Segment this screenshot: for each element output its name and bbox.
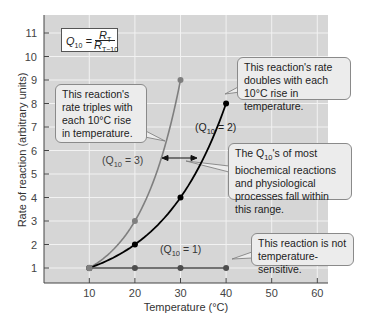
x-tick-label: 30 bbox=[174, 287, 186, 299]
y-tick-label: 2 bbox=[31, 239, 37, 251]
q10-formula-box: Q10 = RT RT−10 bbox=[61, 28, 118, 52]
data-point bbox=[132, 218, 138, 224]
y-tick-label: 4 bbox=[31, 192, 37, 204]
y-tick-label: 7 bbox=[31, 121, 37, 133]
y-tick-label: 8 bbox=[31, 98, 37, 110]
data-point bbox=[132, 265, 138, 271]
data-point bbox=[132, 242, 138, 248]
x-tick-label: 10 bbox=[83, 287, 95, 299]
data-point bbox=[223, 265, 229, 271]
callout-triples: This reaction's rate triples with each 1… bbox=[55, 84, 147, 143]
y-tick-label: 5 bbox=[31, 168, 37, 180]
x-axis-label: Temperature (°C) bbox=[144, 301, 228, 313]
data-point bbox=[178, 77, 184, 83]
callout-range: The Q10's of most biochemical reactions … bbox=[228, 143, 352, 200]
y-tick-label: 3 bbox=[31, 215, 37, 227]
x-tick-label: 20 bbox=[129, 287, 141, 299]
x-tick-label: 60 bbox=[311, 287, 323, 299]
y-tick-label: 6 bbox=[31, 145, 37, 157]
y-axis-label: Rate of reaction (arbitrary units) bbox=[16, 73, 28, 228]
data-point-origin bbox=[86, 265, 92, 271]
data-point bbox=[223, 101, 229, 107]
data-point bbox=[178, 195, 184, 201]
y-tick-label: 1 bbox=[31, 262, 37, 274]
x-tick-label: 50 bbox=[266, 287, 278, 299]
y-tick-label: 9 bbox=[31, 74, 37, 86]
y-tick-label: 11 bbox=[26, 27, 37, 39]
data-point bbox=[178, 265, 184, 271]
formula-denominator: RT−10 bbox=[94, 39, 118, 53]
callout-doubles: This reaction's rate doubles with each 1… bbox=[237, 57, 351, 100]
y-tick-label: 10 bbox=[25, 51, 37, 63]
formula-lhs: Q10 = bbox=[66, 35, 92, 49]
callout-not-sensitive: This reaction is not temperature-sensiti… bbox=[251, 233, 354, 266]
x-tick-label: 40 bbox=[220, 287, 232, 299]
